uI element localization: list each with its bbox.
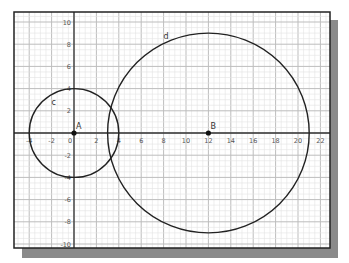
x-tick-label: 0 <box>68 137 72 145</box>
x-tick-label: 22 <box>316 137 324 145</box>
circle-label-d: d <box>164 32 169 41</box>
y-tick-label: 2 <box>67 107 71 115</box>
point-label-B: B <box>210 122 216 131</box>
circle-label-c: c <box>52 98 56 107</box>
x-tick-label: 18 <box>271 137 279 145</box>
x-tick-label: -2 <box>48 137 54 145</box>
x-tick-label: 2 <box>94 137 98 145</box>
plot-background <box>14 12 330 248</box>
y-tick-label: -6 <box>65 196 71 204</box>
x-tick-label: 16 <box>249 137 257 145</box>
point-label-A: A <box>76 122 82 131</box>
x-tick-label: 14 <box>227 137 235 145</box>
x-tick-label: 8 <box>162 137 166 145</box>
y-tick-label: 6 <box>67 63 71 71</box>
y-tick-label: 8 <box>67 41 71 49</box>
x-tick-label: 12 <box>204 137 212 145</box>
x-tick-label: 20 <box>294 137 302 145</box>
x-tick-label: 10 <box>182 137 190 145</box>
point-B <box>206 130 211 135</box>
y-tick-label: -2 <box>65 152 71 160</box>
geometry-plot: -4-20246810121416182022-10-8-6-4-2246810… <box>0 0 349 263</box>
y-tick-label: 10 <box>63 19 71 27</box>
y-tick-label: -8 <box>65 218 71 226</box>
point-A <box>71 130 76 135</box>
x-tick-label: 6 <box>139 137 143 145</box>
